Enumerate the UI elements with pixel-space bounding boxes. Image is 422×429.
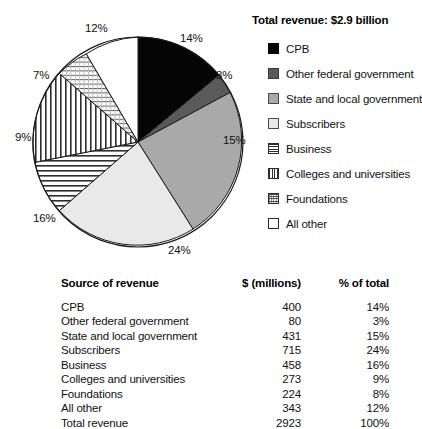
cell-source: CPB (61, 300, 229, 315)
table-row: CPB40014% (61, 300, 389, 315)
legend-swatch-icon (268, 193, 279, 204)
table-row: State and local government43115% (61, 329, 389, 344)
pie-chart-svg (0, 0, 248, 272)
cell-source: Total revenue (61, 416, 229, 429)
legend-item[interactable]: State and local government (268, 86, 411, 111)
legend-item[interactable]: Other federal government (268, 61, 411, 86)
pie-slices (33, 37, 243, 247)
column-header-percent: % of total (301, 276, 389, 300)
chart-legend: Total revenue: $2.9 billion CPBOther fed… (248, 14, 411, 236)
legend-item-label: Other federal government (286, 68, 413, 80)
pie-slice-percent-label: 12% (85, 22, 108, 34)
cell-source: Subscribers (61, 343, 229, 358)
pie-slice-percent-label: 9% (15, 131, 31, 143)
cell-source: Foundations (61, 387, 229, 402)
cell-source: State and local government (61, 329, 229, 344)
table-header: Source of revenue $ (millions) % of tota… (61, 276, 389, 300)
table-row: Other federal government803% (61, 314, 389, 329)
table-row: All other34312% (61, 401, 389, 416)
legend-item[interactable]: CPB (268, 36, 411, 61)
pie-slice-percent-label: 14% (180, 32, 203, 44)
cell-dollars: 343 (229, 401, 301, 416)
cell-percent: 3% (301, 314, 389, 329)
pie-slice-percent-label: 3% (216, 69, 232, 81)
column-header-dollars: $ (millions) (229, 276, 301, 300)
legend-item[interactable]: Foundations (268, 186, 411, 211)
legend-items: CPBOther federal governmentState and loc… (248, 36, 411, 236)
legend-item-label: Foundations (286, 193, 348, 205)
revenue-table: Source of revenue $ (millions) % of tota… (61, 276, 389, 429)
legend-item-label: State and local government (286, 93, 422, 105)
legend-item-label: Colleges and universities (286, 168, 410, 180)
cell-dollars: 458 (229, 358, 301, 373)
cell-dollars: 2923 (229, 416, 301, 429)
pie-slice-percent-label: 15% (223, 134, 246, 146)
column-header-source: Source of revenue (61, 276, 229, 300)
cell-source: Other federal government (61, 314, 229, 329)
table-row: Foundations2248% (61, 387, 389, 402)
table-body: CPB40014%Other federal government803%Sta… (61, 300, 389, 429)
cell-source: Colleges and universities (61, 372, 229, 387)
cell-dollars: 715 (229, 343, 301, 358)
cell-percent: 100% (301, 416, 389, 429)
table-row: Subscribers71524% (61, 343, 389, 358)
cell-dollars: 273 (229, 372, 301, 387)
cell-percent: 8% (301, 387, 389, 402)
cell-source: All other (61, 401, 229, 416)
legend-swatch-icon (268, 93, 279, 104)
legend-item[interactable]: All other (268, 211, 411, 236)
legend-item[interactable]: Business (268, 136, 411, 161)
pie-slice-percent-label: 7% (33, 69, 49, 81)
cell-percent: 16% (301, 358, 389, 373)
cell-percent: 12% (301, 401, 389, 416)
legend-item-label: Subscribers (286, 118, 345, 130)
legend-swatch-icon (268, 118, 279, 129)
cell-dollars: 400 (229, 300, 301, 315)
cell-percent: 14% (301, 300, 389, 315)
cell-source: Business (61, 358, 229, 373)
legend-item-label: CPB (286, 43, 309, 55)
cell-dollars: 431 (229, 329, 301, 344)
table-row: Colleges and universities2739% (61, 372, 389, 387)
pie-chart-area: 14%3%15%24%16%9%7%12% (0, 0, 248, 272)
legend-item-label: All other (286, 218, 327, 230)
cell-dollars: 80 (229, 314, 301, 329)
chart-title: Total revenue: $2.9 billion (252, 14, 411, 26)
cell-percent: 9% (301, 372, 389, 387)
legend-item[interactable]: Subscribers (268, 111, 411, 136)
pie-slice-percent-label: 24% (168, 244, 191, 256)
cell-percent: 15% (301, 329, 389, 344)
table-header-row: Source of revenue $ (millions) % of tota… (61, 276, 389, 300)
cell-dollars: 224 (229, 387, 301, 402)
pie-slice-percent-label: 16% (33, 212, 56, 224)
legend-swatch-icon (268, 43, 279, 54)
legend-swatch-icon (268, 143, 279, 154)
legend-item[interactable]: Colleges and universities (268, 161, 411, 186)
table-row: Business45816% (61, 358, 389, 373)
legend-swatch-icon (268, 68, 279, 79)
legend-item-label: Business (286, 143, 331, 155)
legend-swatch-icon (268, 168, 279, 179)
cell-percent: 24% (301, 343, 389, 358)
table-row: Total revenue2923100% (61, 416, 389, 429)
legend-swatch-icon (268, 218, 279, 229)
